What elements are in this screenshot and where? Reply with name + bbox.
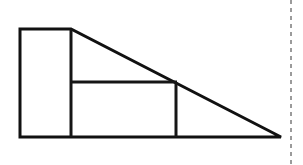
region-middle-rectangle — [71, 82, 176, 137]
figure-canvas — [0, 0, 303, 165]
region-left-rectangle — [20, 29, 71, 137]
geometry-diagram — [0, 0, 303, 165]
